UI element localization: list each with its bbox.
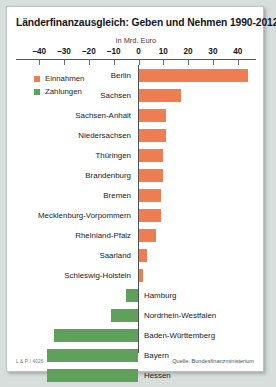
x-tick-label--30: –30 [57, 47, 71, 56]
bar-row: Niedersachsen [7, 126, 265, 146]
chart-card: Länderfinanzausgleich: Geben und Nehmen … [6, 6, 264, 372]
x-tick-label-30: 30 [208, 47, 217, 56]
bar-label: Sachsen [100, 90, 135, 101]
bar-row: Berlin [7, 66, 265, 86]
x-tick-label-10: 10 [159, 47, 168, 56]
chart-subtitle-unit: in Mrd. Euro [7, 36, 265, 45]
bar-label: Baden-Württemberg [140, 330, 215, 341]
bar-berlin[interactable] [139, 69, 248, 82]
bar-label: Bremen [103, 190, 135, 201]
bar-label: Sachsen-Anhalt [75, 110, 135, 121]
bar-row: Thüringen [7, 146, 265, 166]
bar-schleswig-holstein[interactable] [139, 269, 144, 282]
bar-brandenburg[interactable] [139, 169, 164, 182]
bar-row: Schleswig-Holstein [7, 266, 265, 286]
bar-mecklenburg-vorpommern[interactable] [139, 209, 161, 222]
bar-row: Hessen [7, 366, 265, 386]
footer-credit: L & P / 4026 [16, 359, 43, 364]
bar-hessen[interactable] [47, 369, 139, 382]
bar-row: Mecklenburg-Vorpommern [7, 206, 265, 226]
bar-row: Nordrhein-Westfalen [7, 306, 265, 326]
bar-bremen[interactable] [139, 189, 161, 202]
bar-row: Bremen [7, 186, 265, 206]
x-tick-label-0: 0 [136, 47, 141, 56]
bar-label: Hamburg [140, 290, 176, 301]
bar-baden-w-rttemberg[interactable] [54, 329, 138, 342]
bar-row: Brandenburg [7, 166, 265, 186]
bar-niedersachsen[interactable] [139, 129, 166, 142]
chart-page: Länderfinanzausgleich: Geben und Nehmen … [0, 0, 276, 387]
bar-label: Bayern [140, 350, 169, 361]
bar-label: Berlin [111, 70, 135, 81]
bar-label: Mecklenburg-Vorpommern [38, 210, 135, 221]
bar-label: Rheinland-Pfalz [75, 230, 135, 241]
bar-label: Brandenburg [85, 170, 135, 181]
chart-plot-area: BerlinSachsenSachsen-AnhaltNiedersachsen… [7, 65, 265, 355]
chart-title: Länderfinanzausgleich: Geben und Nehmen … [16, 17, 260, 28]
x-tick-label--20: –20 [82, 47, 96, 56]
bar-saarland[interactable] [139, 249, 148, 262]
bar-row: Baden-Württemberg [7, 326, 265, 346]
bar-row: Hamburg [7, 286, 265, 306]
x-axis-tick-labels: –40–30–20–10010203040 [7, 47, 265, 58]
bar-th-ringen[interactable] [139, 149, 164, 162]
bar-rheinland-pfalz[interactable] [139, 229, 156, 242]
x-tick-label-20: 20 [184, 47, 193, 56]
bar-label: Thüringen [95, 150, 135, 161]
bar-bayern[interactable] [47, 349, 139, 362]
x-tick-label-40: 40 [233, 47, 242, 56]
bar-row: Sachsen [7, 86, 265, 106]
bar-sachsen[interactable] [139, 89, 181, 102]
bar-sachsen-anhalt[interactable] [139, 109, 166, 122]
x-tick-label--10: –10 [107, 47, 121, 56]
bar-row: Saarland [7, 246, 265, 266]
bar-row: Rheinland-Pfalz [7, 226, 265, 246]
bar-label: Hessen [140, 370, 171, 381]
bar-label: Niedersachsen [78, 130, 135, 141]
bar-label: Schleswig-Holstein [64, 270, 135, 281]
bar-nordrhein-westfalen[interactable] [111, 309, 138, 322]
footer-source: Quelle: Bundesfinanzministerium [172, 358, 254, 364]
bar-label: Saarland [99, 250, 135, 261]
bar-row: Sachsen-Anhalt [7, 106, 265, 126]
bar-label: Nordrhein-Westfalen [140, 310, 216, 321]
x-tick-label--40: –40 [32, 47, 46, 56]
bar-hamburg[interactable] [126, 289, 138, 302]
